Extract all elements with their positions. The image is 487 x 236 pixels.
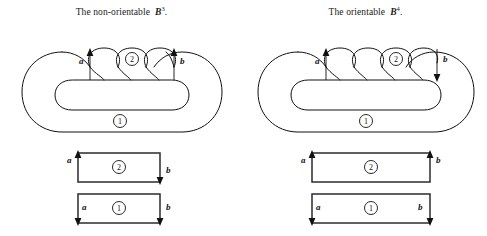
blob-arrow-b-head-right bbox=[434, 74, 441, 82]
strip-1-region-label-right: 1 bbox=[369, 204, 373, 213]
caption-period-left: . bbox=[165, 7, 167, 17]
strip-1-left-arrowhead-left bbox=[75, 218, 82, 226]
figure-container: The non-orientableB3. 2 1 bbox=[0, 0, 487, 236]
inner-scallop-2-right bbox=[354, 67, 367, 80]
blob-arrow-b-label-left: b bbox=[180, 56, 185, 66]
blob-arrow-a-label-left: a bbox=[79, 56, 84, 66]
strip-2-non-orientable: 2 a b bbox=[0, 145, 243, 190]
caption-period-right: . bbox=[400, 7, 402, 17]
strip-2-left-label-right: a bbox=[301, 155, 306, 165]
inner-scallop-3-right bbox=[382, 67, 395, 80]
strip-1-region-label-left: 1 bbox=[117, 204, 121, 213]
strip-2-left-arrowhead-left bbox=[75, 150, 82, 158]
strip-1-orientable: 1 a b bbox=[244, 188, 487, 233]
strip-1-right-arrowhead-left bbox=[157, 218, 164, 226]
strip-2-region-label-left: 2 bbox=[117, 163, 121, 172]
blob-arrow-b-label-right: b bbox=[443, 54, 448, 64]
caption-non-orientable: The non-orientableB3. bbox=[0, 3, 243, 18]
region-label-lobe-left: 2 bbox=[130, 55, 134, 64]
outer-boundary-left bbox=[22, 52, 222, 132]
strip-2-right-label-left: b bbox=[166, 165, 171, 175]
strip-2-right-arrowhead-left bbox=[157, 177, 164, 185]
lobe-1-left bbox=[88, 48, 119, 67]
strip-1-right-arrowhead-right bbox=[427, 218, 434, 226]
outer-boundary-right-shoulder bbox=[298, 52, 326, 67]
panel-orientable: The orientableB4. 2 1 a bbox=[244, 0, 487, 236]
region-label-outer-left: 1 bbox=[118, 117, 122, 126]
region-label-outer-right: 1 bbox=[364, 117, 368, 126]
inner-track-right bbox=[291, 80, 441, 110]
inner-scallop-2-left bbox=[118, 67, 131, 80]
inner-scallop-3-left bbox=[146, 67, 159, 80]
inner-scallop-1-left bbox=[90, 67, 104, 80]
strip-1-right-label-right: b bbox=[418, 202, 423, 212]
strip-2-right-arrowhead-right bbox=[427, 150, 434, 158]
lobe-2-right bbox=[352, 48, 383, 67]
strip-1-left-arrowhead-right bbox=[309, 218, 316, 226]
blob-arrow-a-label-right: a bbox=[315, 56, 320, 66]
strip-1-left-label-right: a bbox=[316, 202, 321, 212]
caption-text-right: The orientable bbox=[329, 7, 386, 17]
strip-1-left-label-left: a bbox=[82, 202, 87, 212]
strip-2-left-label-left: a bbox=[67, 155, 72, 165]
lobe-3-left bbox=[144, 48, 175, 67]
strip-2-region-label-right: 2 bbox=[369, 163, 373, 172]
lobe-4-right bbox=[408, 48, 437, 67]
inner-track-left bbox=[55, 80, 189, 110]
strip-2-right-label-right: b bbox=[436, 155, 441, 165]
inner-scallop-4-right bbox=[410, 67, 423, 80]
strip-2-left-arrowhead-right bbox=[309, 150, 316, 158]
lobe-1-right bbox=[324, 48, 355, 67]
blob-diagram-orientable: 2 1 a b bbox=[244, 22, 487, 137]
blob-diagram-non-orientable: 2 1 a b bbox=[0, 22, 243, 137]
inner-scallop-1-right bbox=[326, 67, 340, 80]
strip-1-right-label-left: b bbox=[166, 202, 171, 212]
outer-boundary-left-shoulder bbox=[62, 52, 90, 67]
panel-non-orientable: The non-orientableB3. 2 1 bbox=[0, 0, 243, 236]
caption-text-left: The non-orientable bbox=[76, 7, 150, 17]
region-label-lobe-right: 2 bbox=[394, 55, 398, 64]
strip-1-non-orientable: 1 a b bbox=[0, 188, 243, 233]
caption-orientable: The orientableB4. bbox=[244, 3, 487, 18]
strip-2-orientable: 2 a b bbox=[244, 145, 487, 190]
